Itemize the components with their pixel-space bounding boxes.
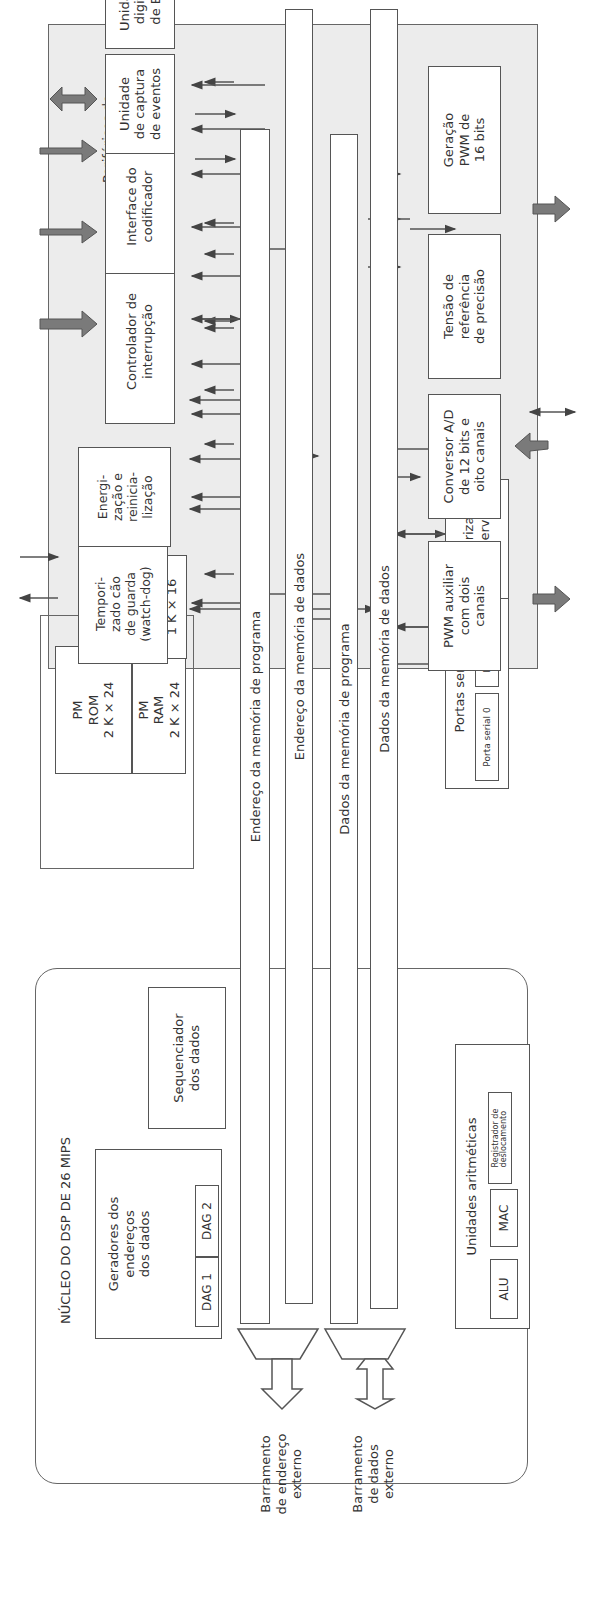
digital-io-box: Unidade digital de E/S bbox=[105, 0, 175, 49]
external-data-bus-label: Barramento de dados externo bbox=[350, 1419, 397, 1529]
external-address-bus-label: Barramento de endereço externo bbox=[258, 1419, 305, 1529]
dag2-label: DAG 2 bbox=[195, 1185, 219, 1257]
event-capture-box: Unidade de captura de eventos bbox=[105, 54, 175, 154]
sequencer-box: Sequenciador dos dados bbox=[148, 987, 226, 1129]
dsp-block-diagram: NÚCLEO DO DSP DE 26 MIPS Periféricos de … bbox=[0, 0, 605, 1609]
voltage-reference-box: Tensão de referência de precisão bbox=[428, 234, 501, 379]
dag1-label: DAG 1 bbox=[195, 1257, 219, 1327]
pm-ram-box: PM RAM 2 K × 24 bbox=[132, 646, 186, 774]
pm-rom-box: PM ROM 2 K × 24 bbox=[55, 646, 132, 774]
interrupt-controller-box: Controlador de interrupção bbox=[105, 259, 175, 424]
shifter-box: Registrador de deslocamento bbox=[488, 1092, 512, 1184]
encoder-interface-box: Interface do codificador bbox=[105, 139, 175, 274]
mac-box: MAC bbox=[490, 1189, 518, 1247]
aux-pwm-box: PWM auxiliar com dois canais bbox=[428, 541, 501, 671]
serial-port-0: Porta serial 0 bbox=[475, 693, 499, 781]
watchdog-timer-box: Tempori- zado cão de guarda (watch-dog) bbox=[78, 544, 168, 664]
alu-box: ALU bbox=[490, 1259, 518, 1319]
adc-box: Conversor A/D de 12 bits e oito canais bbox=[428, 394, 501, 519]
pwm16-box: Geração PWM de 16 bits bbox=[428, 66, 501, 214]
power-reset-box: Energi- zação e reinicia- lização bbox=[78, 447, 171, 547]
external-bus-muxes bbox=[0, 0, 605, 1609]
